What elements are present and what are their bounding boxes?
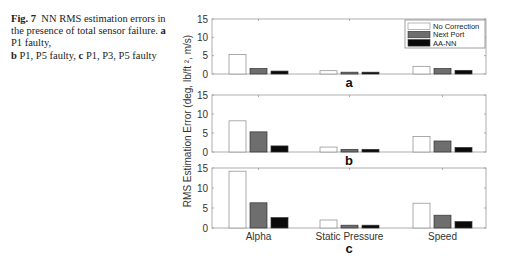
x-category-label: Static Pressure: [316, 231, 384, 242]
bar-b-next-port-alpha: [250, 132, 267, 152]
bar-b-aa-nn-speed: [455, 147, 472, 152]
bar-c-next-port-speed: [434, 215, 451, 228]
bar-a-aa-nn-speed: [455, 70, 472, 74]
bar-b-no-correction-alpha: [229, 121, 246, 152]
bar-a-no-correction-static-pressure: [320, 71, 337, 74]
bar-b-next-port-speed: [434, 141, 451, 152]
y-tick-label: 10: [197, 32, 209, 43]
y-tick-label: 0: [202, 223, 208, 234]
legend-label: AA-NN: [433, 39, 456, 48]
bar-c-no-correction-alpha: [229, 171, 246, 228]
bar-c-no-correction-static-pressure: [320, 220, 337, 228]
y-tick-label: 5: [202, 50, 208, 61]
y-tick-label: 15: [197, 14, 209, 25]
bar-a-next-port-alpha: [250, 69, 267, 75]
bar-b-no-correction-static-pressure: [320, 147, 337, 152]
bar-c-no-correction-speed: [413, 203, 430, 228]
legend-swatch-aa-nn: [408, 40, 430, 47]
bar-a-no-correction-speed: [413, 66, 430, 74]
bar-a-aa-nn-alpha: [271, 71, 288, 74]
bar-a-next-port-static-pressure: [341, 72, 358, 74]
y-axis-label: RMS Estimation Error (deg, lb/ft ², m/s): [182, 35, 193, 207]
panel-label-b: b: [345, 153, 353, 168]
y-tick-label: 0: [202, 147, 208, 158]
y-tick-label: 5: [202, 203, 208, 214]
legend-swatch-no-correction: [408, 23, 430, 30]
bar-a-aa-nn-static-pressure: [362, 72, 379, 74]
bar-b-next-port-static-pressure: [341, 149, 358, 152]
x-category-label: Alpha: [246, 231, 272, 242]
bar-chart-figure: 051015a051015b051015cAlphaStatic Pressur…: [0, 0, 512, 260]
bar-b-no-correction-speed: [413, 136, 430, 152]
bar-b-aa-nn-static-pressure: [362, 149, 379, 152]
y-tick-label: 5: [202, 128, 208, 139]
y-tick-label: 15: [197, 90, 209, 101]
y-tick-label: 0: [202, 69, 208, 80]
bar-a-next-port-speed: [434, 69, 451, 75]
y-tick-label: 10: [197, 183, 209, 194]
x-category-label: Speed: [428, 231, 457, 242]
bar-c-next-port-alpha: [250, 203, 267, 228]
panel-label-a: a: [345, 75, 353, 90]
y-tick-label: 15: [197, 163, 209, 174]
bar-c-next-port-static-pressure: [341, 225, 358, 228]
bar-b-aa-nn-alpha: [271, 146, 288, 152]
y-tick-label: 10: [197, 109, 209, 120]
panel-label-c: c: [345, 241, 352, 256]
bar-c-aa-nn-static-pressure: [362, 225, 379, 228]
bar-c-aa-nn-speed: [455, 222, 472, 228]
bar-c-aa-nn-alpha: [271, 218, 288, 228]
bar-a-no-correction-alpha: [229, 55, 246, 74]
legend-swatch-next-port: [408, 31, 430, 38]
